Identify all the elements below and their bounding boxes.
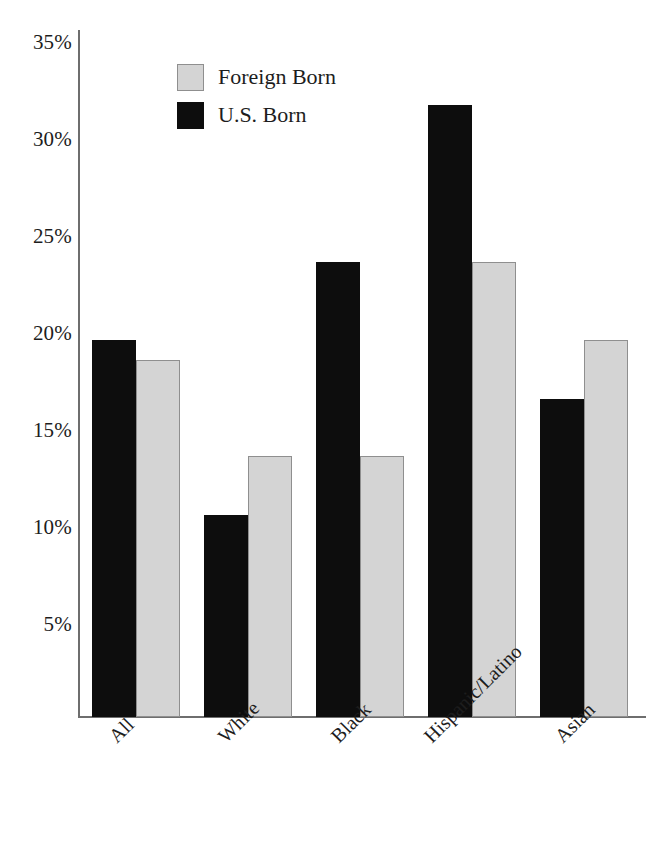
legend-item-foreign-born: Foreign Born [177,58,336,96]
legend-item-us-born: U.S. Born [177,96,336,134]
x-tick-label-white: White [214,697,263,746]
x-tick-label-asian: Asian [551,699,598,746]
legend-label-us-born: U.S. Born [218,104,307,126]
bar-chart: 35% 30% 25% 20% 15% 10% 5% All White Bla… [0,0,669,853]
x-tick-label-all: All [105,714,137,746]
x-tick-label-black: Black [327,699,374,746]
x-tick-label-hispanic-latino: Hispanic/Latino [420,641,525,746]
legend-swatch-foreign-born [177,64,204,91]
chart-legend: Foreign Born U.S. Born [177,58,336,134]
legend-label-foreign-born: Foreign Born [218,66,336,88]
legend-swatch-us-born [177,102,204,129]
